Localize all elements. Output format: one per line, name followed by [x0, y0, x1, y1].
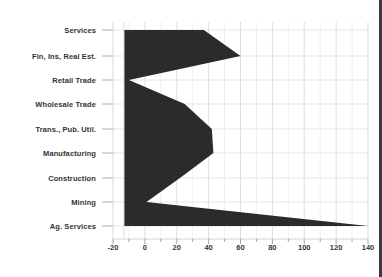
category-label: Retail Trade [52, 76, 96, 85]
category-label: Wholesale Trade [35, 100, 96, 109]
category-label: Fin, Ins, Real Est. [32, 52, 96, 61]
value-tick-label: 80 [268, 243, 276, 252]
value-tick-label: 0 [143, 243, 147, 252]
category-label: Ag. Services [50, 222, 96, 231]
category-label: Construction [48, 174, 96, 183]
category-label: Mining [71, 198, 96, 207]
category-axis: ServicesFin, Ins, Real Est.Retail TradeW… [0, 0, 96, 277]
value-tick-label: 60 [236, 243, 244, 252]
value-tick-label: 40 [204, 243, 212, 252]
value-tick-label: -20 [108, 243, 119, 252]
chart-container: ServicesFin, Ins, Real Est.Retail TradeW… [0, 0, 382, 277]
value-tick-label: 100 [298, 243, 311, 252]
category-label: Trans., Pub. Util. [35, 125, 96, 134]
value-tick-label: 140 [362, 243, 375, 252]
value-tick-label: 120 [330, 243, 343, 252]
category-label: Manufacturing [43, 149, 96, 158]
category-label: Services [64, 26, 96, 35]
value-tick-label: 20 [173, 243, 181, 252]
value-axis-tick-labels: -20020406080100120140 [0, 243, 382, 257]
